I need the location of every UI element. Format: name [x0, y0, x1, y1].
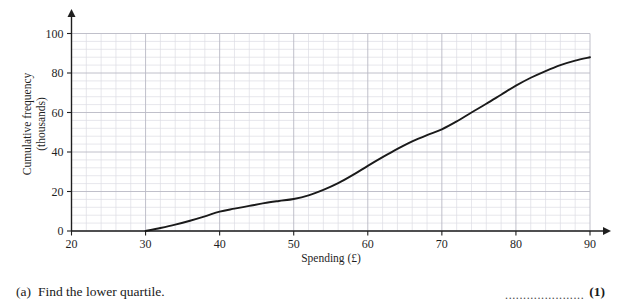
answer-dotted-line[interactable]: ......................	[505, 288, 584, 303]
x-tick-label: 20	[66, 237, 78, 251]
question-row: (a) Find the lower quartile. ...........…	[0, 278, 617, 306]
x-tick-label: 70	[436, 237, 448, 251]
y-axis-title-line1: Cumulative frequency	[21, 73, 34, 176]
y-tick-label: 40	[52, 145, 64, 159]
x-tick-label: 80	[510, 237, 522, 251]
y-axis-title-line2: (thousands)	[35, 97, 48, 151]
grid-minor	[72, 34, 591, 232]
question-marks: (1)	[589, 284, 605, 300]
x-tick-label: 90	[584, 237, 596, 251]
question-letter: (a)	[16, 284, 31, 300]
question-text: Find the lower quartile.	[38, 284, 165, 300]
y-axis-title: Cumulative frequency (thousands)	[21, 73, 48, 176]
x-tick-label: 40	[214, 237, 226, 251]
x-tick-label: 30	[140, 237, 152, 251]
y-tick-label: 0	[58, 224, 64, 238]
x-tick-labels: 2030405060708090	[66, 237, 597, 251]
y-tick-labels: 020406080100	[46, 27, 64, 239]
cumulative-frequency-chart: 020406080100 2030405060708090 Cumulative…	[0, 0, 617, 275]
grid-major	[72, 34, 591, 232]
y-tick-label: 100	[46, 27, 64, 41]
x-tick-label: 50	[288, 237, 300, 251]
x-axis-title: Spending (£)	[301, 252, 361, 265]
x-tick-label: 60	[362, 237, 374, 251]
y-tick-label: 60	[52, 106, 64, 120]
y-tick-label: 20	[52, 185, 64, 199]
y-tick-label: 80	[52, 66, 64, 80]
